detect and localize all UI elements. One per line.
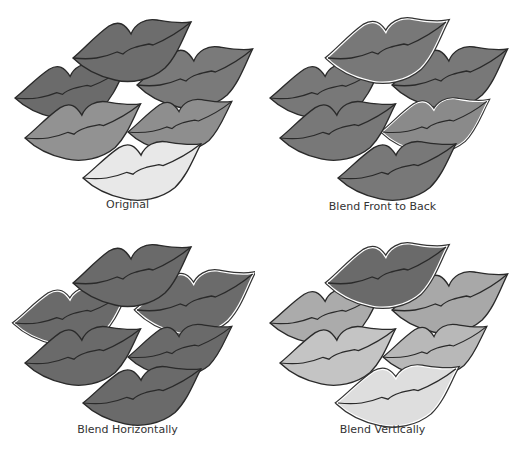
panel-blend-horizontally: Blend Horizontally <box>0 225 255 450</box>
panel-blend-vertically: Blend Vertically <box>255 225 510 450</box>
lips-group-blend-vertically <box>255 225 510 450</box>
lips-group-original <box>0 0 255 225</box>
lips-group-blend-horizontally <box>0 225 255 450</box>
caption-blend-vertically: Blend Vertically <box>255 423 510 436</box>
panel-blend-front-to-back: Blend Front to Back <box>255 0 510 225</box>
lips-group-blend-front-to-back <box>255 0 510 225</box>
caption-blend-horizontally: Blend Horizontally <box>0 423 255 436</box>
panel-original: Original <box>0 0 255 225</box>
caption-blend-front-to-back: Blend Front to Back <box>255 200 510 213</box>
caption-original: Original <box>0 198 255 211</box>
